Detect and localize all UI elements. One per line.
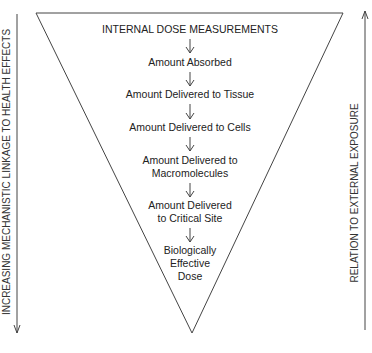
right-axis-label: RELATION TO EXTERNAL EXPOSURE <box>349 103 360 282</box>
step-delivered-to-tissue: Amount Delivered to Tissue <box>126 88 255 100</box>
step-biologically-effective-dose-line1: Biologically <box>164 244 217 256</box>
left-axis-label: INCREASING MECHANISTIC LINKAGE TO HEALTH… <box>1 29 12 315</box>
down-arrow-icon <box>186 183 194 197</box>
step-delivered-to-macromolecules-line1: Amount Delivered to <box>142 154 237 166</box>
step-delivered-to-critical-site-line1: Amount Delivered <box>148 199 232 211</box>
down-arrow-icon <box>186 228 194 242</box>
step-delivered-to-critical-site-line2: to Critical Site <box>158 212 223 224</box>
right-axis-up-arrow-icon <box>362 11 368 330</box>
dose-diagram: INTERNAL DOSE MEASUREMENTS Amount Absorb… <box>0 0 372 353</box>
left-axis-down-arrow-icon <box>14 14 20 333</box>
step-biologically-effective-dose-line2: Effective <box>170 257 210 269</box>
down-arrow-icon <box>186 137 194 151</box>
step-delivered-to-macromolecules-line2: Macromolecules <box>152 167 228 179</box>
down-arrow-icon <box>186 39 194 53</box>
step-amount-absorbed: Amount Absorbed <box>148 56 232 68</box>
down-arrow-icon <box>186 104 194 119</box>
down-arrow-icon <box>186 72 194 86</box>
step-biologically-effective-dose-line3: Dose <box>178 270 203 282</box>
internal-dose-header: INTERNAL DOSE MEASUREMENTS <box>102 23 278 35</box>
step-delivered-to-cells: Amount Delivered to Cells <box>129 121 250 133</box>
